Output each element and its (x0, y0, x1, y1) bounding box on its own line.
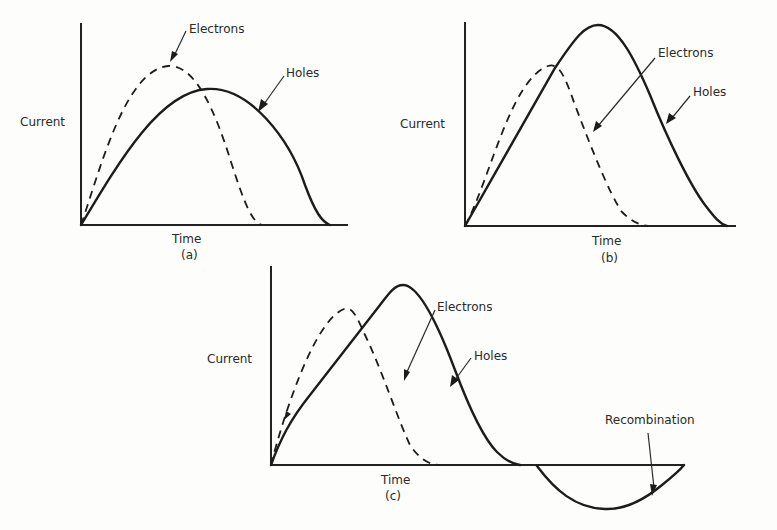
holes-arrow (455, 358, 471, 380)
electrons-label: Electrons (437, 300, 492, 314)
y-axis-label: Current (400, 117, 445, 131)
figure-canvas: Electrons Holes Current Time (a) Electro… (0, 0, 777, 530)
electrons-label: Electrons (658, 46, 713, 60)
holes-arrow (264, 76, 284, 104)
electrons-arrow (406, 310, 435, 374)
electrons-curve (465, 65, 648, 226)
panel-caption: (a) (181, 248, 198, 262)
holes-arrow (672, 96, 690, 118)
panel-a: Electrons Holes Current Time (a) (20, 22, 348, 262)
holes-negative-lobe (537, 465, 684, 509)
arrowhead-icon (284, 411, 291, 420)
x-axis-label: Time (591, 234, 621, 248)
electrons-curve (81, 66, 262, 225)
y-axis-label: Current (207, 352, 252, 366)
recombination-arrow (648, 433, 654, 488)
panel-c: Electrons Holes Recombination Current Ti… (207, 266, 695, 509)
holes-label: Holes (474, 349, 507, 363)
arrowhead-icon (404, 369, 410, 381)
holes-curve (81, 89, 330, 225)
arrowhead-icon (170, 51, 178, 62)
electrons-arrow (598, 58, 655, 126)
panel-caption: (b) (601, 251, 618, 265)
electrons-arrow (174, 31, 186, 56)
panel-caption: (c) (385, 489, 401, 503)
panel-b: Electrons Holes Current Time (b) (400, 22, 736, 265)
y-axis-label: Current (20, 115, 65, 129)
electrons-label: Electrons (189, 22, 244, 36)
x-axis-label: Time (171, 232, 201, 246)
electrons-curve (271, 308, 440, 465)
recombination-label: Recombination (605, 413, 695, 427)
holes-label: Holes (693, 85, 726, 99)
x-axis-label: Time (380, 473, 410, 487)
holes-label: Holes (286, 66, 319, 80)
